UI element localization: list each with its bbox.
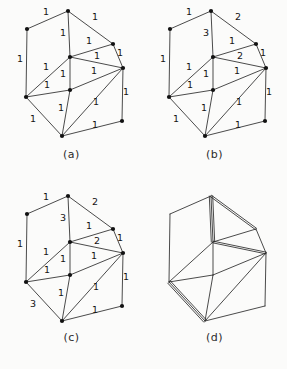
- graph-a: 1111111111111111: [0, 0, 143, 150]
- graph-edge: [213, 229, 256, 242]
- graph-vertex: [264, 66, 268, 70]
- edge-weight-label: 1: [260, 47, 266, 58]
- edge-weight-label: 1: [60, 68, 66, 79]
- edge-weight-label: 1: [91, 250, 97, 261]
- graph-vertex: [60, 319, 64, 323]
- graph-vertex: [68, 55, 72, 59]
- panel-b-caption: (b): [143, 148, 286, 161]
- graph-vertex: [211, 88, 215, 92]
- edge-weight-label: 1: [44, 264, 50, 275]
- edge-weight-label: 1: [235, 119, 241, 130]
- edge-weight-label: 1: [30, 113, 36, 124]
- graph-vertex: [168, 27, 172, 31]
- graph-edge: [213, 241, 266, 252]
- edge-weight-label: 1: [17, 238, 23, 249]
- graph-d: [143, 185, 286, 335]
- edge-weight-label: 2: [92, 196, 98, 207]
- edge-weight-label: 1: [203, 68, 209, 79]
- graph-vertex: [120, 119, 124, 123]
- graph-edge: [205, 253, 266, 321]
- edge-weight-label: 1: [92, 11, 98, 22]
- graph-vertex: [25, 27, 29, 31]
- edge-weight-label: 1: [58, 102, 64, 113]
- edge-weight-label: 1: [60, 27, 66, 38]
- edge-weight-label: 1: [43, 246, 49, 257]
- graph-vertex: [25, 212, 29, 216]
- edge-weight-label: 1: [86, 35, 92, 46]
- graph-vertex: [120, 304, 124, 308]
- graph-edge: [26, 29, 27, 97]
- graph-vertex: [111, 42, 115, 46]
- edge-weight-label: 1: [117, 47, 123, 58]
- edge-weight-label: 1: [60, 253, 66, 264]
- graph-vertex: [60, 134, 64, 138]
- edge-weight-label: 1: [266, 86, 272, 97]
- edge-weight-label: 2: [237, 50, 243, 61]
- edge-weight-label: 2: [235, 11, 241, 22]
- graph-edge: [62, 90, 70, 136]
- graph-vertex: [68, 88, 72, 92]
- edge-weight-label: 1: [58, 287, 64, 298]
- graph-edge: [169, 282, 205, 321]
- edge-weight-label: 1: [94, 50, 100, 61]
- edge-weight-label: 1: [173, 113, 179, 124]
- edge-weight-label: 3: [60, 212, 66, 223]
- edge-weight-label: 1: [229, 35, 235, 46]
- graph-vertex: [121, 251, 125, 255]
- graph-vertex: [68, 273, 72, 277]
- graph-edge: [205, 275, 213, 321]
- edge-weight-label: 2: [94, 235, 100, 246]
- edge-weight-label: 1: [43, 61, 49, 72]
- graph-edge: [170, 196, 211, 214]
- edge-weight-label: 1: [93, 281, 99, 292]
- graph-b: 1213112111111111: [143, 0, 286, 150]
- graph-edge: [213, 253, 266, 275]
- edge-weight-label: 1: [93, 96, 99, 107]
- graph-edge: [205, 306, 265, 321]
- graph-edge: [256, 229, 266, 253]
- graph-vertex: [66, 194, 70, 198]
- graph-edge: [212, 195, 257, 228]
- graph-edge: [205, 90, 213, 136]
- panel-b: 1213112111111111 (b): [143, 0, 286, 184]
- graph-vertex: [66, 9, 70, 13]
- graph-vertex: [24, 280, 28, 284]
- edge-weight-label: 1: [117, 232, 123, 243]
- graph-edge: [68, 196, 70, 242]
- edge-weight-label: 1: [44, 79, 50, 90]
- graph-vertex: [24, 95, 28, 99]
- edge-weight-label: 1: [43, 6, 49, 17]
- edge-weight-label: 1: [160, 53, 166, 64]
- graph-vertex: [111, 227, 115, 231]
- edge-weight-label: 3: [203, 27, 209, 38]
- panel-d: (d): [143, 185, 286, 369]
- edge-weight-label: 1: [234, 65, 240, 76]
- edge-weight-label: 1: [123, 271, 129, 282]
- edge-weight-label: 1: [17, 53, 23, 64]
- graph-vertex: [263, 119, 267, 123]
- edge-weight-label: 1: [92, 119, 98, 130]
- figure-container: 1111111111111111 (a) 1213112111111111 (b…: [0, 0, 287, 369]
- graph-edge: [169, 214, 170, 282]
- edge-weight-label: 1: [187, 79, 193, 90]
- graph-edge: [211, 11, 213, 57]
- graph-vertex: [68, 240, 72, 244]
- graph-vertex: [209, 9, 213, 13]
- graph-vertex: [121, 66, 125, 70]
- edge-weight-label: 1: [201, 102, 207, 113]
- graph-edge: [265, 253, 266, 306]
- edge-weight-label: 3: [30, 298, 36, 309]
- graph-c: 1213112111131111: [0, 185, 143, 335]
- graph-edge: [170, 281, 206, 320]
- edge-weight-label: 1: [43, 191, 49, 202]
- graph-vertex: [211, 55, 215, 59]
- edge-weight-label: 1: [236, 96, 242, 107]
- edge-weight-label: 1: [186, 61, 192, 72]
- panel-c-caption: (c): [0, 331, 143, 344]
- edge-weight-label: 1: [91, 65, 97, 76]
- edge-weight-label: 1: [86, 220, 92, 231]
- graph-vertex: [254, 42, 258, 46]
- graph-vertex: [167, 95, 171, 99]
- edge-weight-label: 1: [186, 6, 192, 17]
- graph-edge: [62, 275, 70, 321]
